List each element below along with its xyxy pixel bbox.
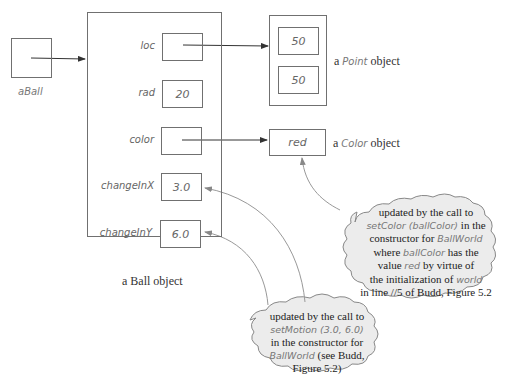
note-line: constructor for BallWorld bbox=[350, 232, 502, 246]
point-y-value: 50 bbox=[279, 67, 318, 93]
field-label-color: color bbox=[84, 134, 154, 145]
point-x-value: 50 bbox=[279, 28, 318, 54]
field-box-color bbox=[161, 127, 202, 155]
note-line: value red by virtue of bbox=[350, 259, 502, 273]
note-line: updated by the call to bbox=[252, 310, 382, 323]
note-line: in the constructor for bbox=[252, 336, 382, 349]
point-y-box: 50 bbox=[278, 66, 319, 94]
field-box-changeiny: 6.0 bbox=[160, 220, 201, 248]
note-line: setColor (ballColor) in the bbox=[350, 219, 502, 233]
note-line: where ballColor has the bbox=[350, 246, 502, 260]
note-line: Figure 5.2) bbox=[252, 362, 382, 375]
point-x-box: 50 bbox=[278, 27, 319, 55]
note-line: updated by the call to bbox=[350, 206, 502, 219]
field-box-loc bbox=[162, 33, 203, 61]
color-value: red bbox=[270, 130, 325, 155]
ball-object-caption: a Ball object bbox=[122, 274, 183, 289]
field-box-rad: 20 bbox=[162, 80, 203, 108]
point-object-caption: a Point object bbox=[334, 54, 400, 69]
field-value-changeinx: 3.0 bbox=[162, 174, 201, 200]
note-line: the initialization of world bbox=[350, 273, 502, 287]
color-note-text: updated by the call to setColor (ballCol… bbox=[350, 206, 502, 299]
aball-label: aBall bbox=[18, 86, 43, 97]
color-object-caption: a Color object bbox=[333, 136, 400, 151]
note-line: setMotion (3.0, 6.0) bbox=[252, 323, 382, 337]
motion-note-text: updated by the call to setMotion (3.0, 6… bbox=[252, 310, 382, 375]
field-value-rad: 20 bbox=[163, 81, 202, 107]
field-label-rad: rad bbox=[85, 87, 155, 98]
note-line: BallWorld (see Budd, bbox=[252, 349, 382, 363]
field-label-loc: loc bbox=[85, 40, 155, 51]
field-value-changeiny: 6.0 bbox=[161, 221, 200, 247]
field-label-changeinx: changeInX bbox=[84, 180, 154, 191]
field-box-changeinx: 3.0 bbox=[161, 173, 202, 201]
color-object-box: red bbox=[269, 129, 326, 156]
field-label-changeiny: changeInY bbox=[82, 227, 152, 238]
aball-variable-box bbox=[11, 38, 52, 78]
note-line: in line //5 of Budd, Figure 5.2 bbox=[350, 286, 502, 299]
